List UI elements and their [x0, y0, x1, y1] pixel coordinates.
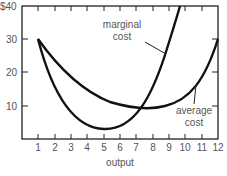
- x-tick-11: 11: [197, 142, 208, 153]
- x-tick-4: 4: [84, 142, 90, 153]
- x-tick-8: 8: [150, 142, 156, 153]
- x-axis-label: output: [106, 157, 134, 168]
- x-tick-5: 5: [101, 142, 107, 153]
- x-tick-10: 10: [179, 142, 191, 153]
- marginal-cost-label-2: cost: [113, 31, 132, 42]
- x-tick-9: 9: [166, 142, 172, 153]
- average-cost-label-1: average: [176, 105, 213, 116]
- y-tick-10: 10: [6, 101, 18, 112]
- x-tick-12: 12: [212, 142, 224, 153]
- x-tick-6: 6: [117, 142, 123, 153]
- x-tick-7: 7: [133, 142, 139, 153]
- x-tick-2: 2: [52, 142, 58, 153]
- marginal-cost-pointer: [145, 42, 166, 54]
- x-tick-3: 3: [68, 142, 74, 153]
- marginal-cost-label-1: marginal: [103, 19, 141, 30]
- y-tick-30: 30: [6, 34, 18, 45]
- y-axis-ticks: [22, 39, 218, 106]
- x-tick-1: 1: [35, 142, 41, 153]
- cost-curves-chart: $40 30 20 10 1 2 3 4 5 6 7 8 9 10 11 12 …: [0, 0, 227, 176]
- y-tick-40: $40: [0, 1, 17, 12]
- y-tick-20: 20: [6, 67, 18, 78]
- average-cost-label-2: cost: [185, 117, 204, 128]
- average-cost-curve: [38, 39, 218, 108]
